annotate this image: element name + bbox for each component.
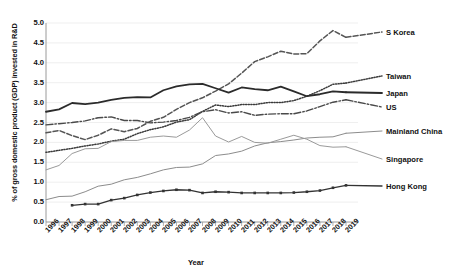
legend-item-s-korea[interactable]: S Korea: [386, 28, 415, 37]
legend-item-mainland-china[interactable]: Mainland China: [386, 127, 442, 136]
legend: S KoreaTaiwanJapanUSMainland ChinaSingap…: [0, 0, 460, 272]
legend-item-hong-kong[interactable]: Hong Kong: [386, 182, 427, 191]
legend-item-taiwan[interactable]: Taiwan: [386, 72, 411, 81]
rnd-gdp-line-chart: % of gross domestic product (GDP) invest…: [0, 0, 460, 272]
legend-item-japan[interactable]: Japan: [386, 89, 408, 98]
legend-item-us[interactable]: US: [386, 103, 397, 112]
legend-item-singapore[interactable]: Singapore: [386, 155, 423, 164]
